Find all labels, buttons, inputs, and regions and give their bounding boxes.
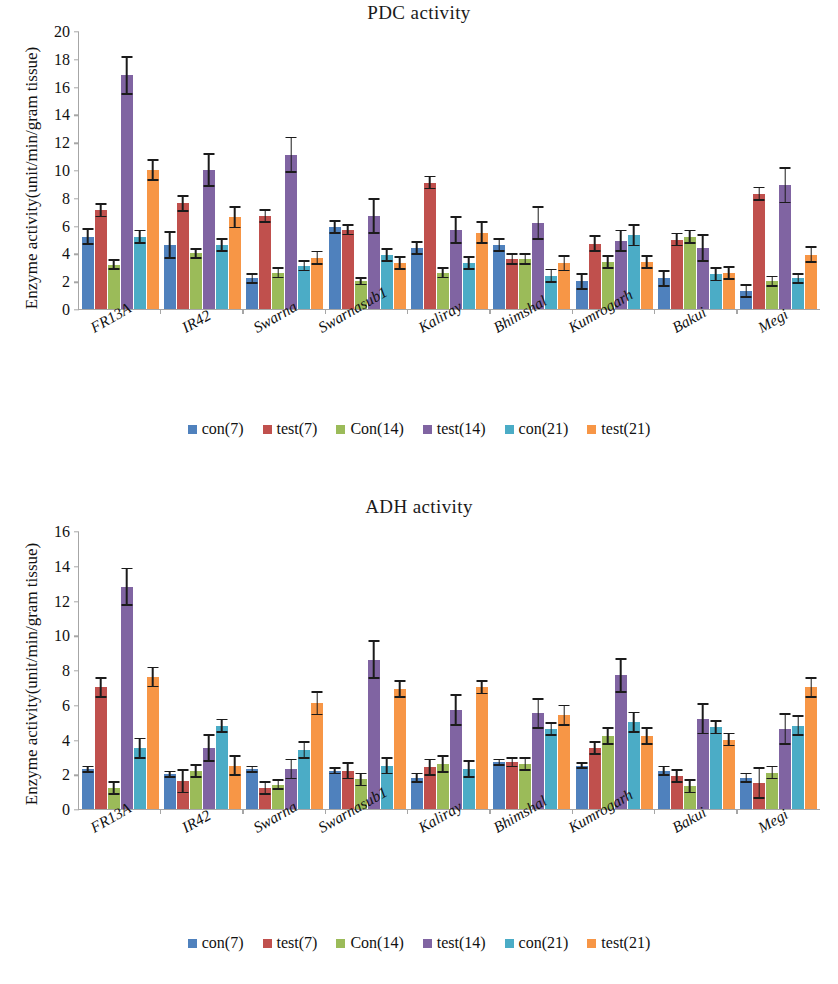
error-bar — [299, 260, 310, 271]
legend-swatch-icon — [423, 425, 432, 434]
bar-con7 — [493, 762, 505, 809]
x-label-cell: Bakui — [655, 814, 737, 874]
bar-test7 — [95, 210, 107, 309]
legend-swatch-icon — [263, 939, 272, 948]
bar-group — [326, 32, 408, 309]
error-bar — [767, 766, 778, 780]
plot-area-pdc: 02468101214161820 — [78, 32, 820, 310]
legend-label: con(21) — [519, 934, 569, 952]
error-bar — [641, 255, 652, 269]
error-bar — [723, 266, 734, 280]
error-bar — [671, 233, 682, 247]
error-bar — [780, 713, 791, 744]
y-tick-label: 8 — [62, 190, 79, 208]
bar-con21 — [134, 237, 146, 309]
y-tick-label: 16 — [54, 79, 79, 97]
bar-group — [326, 532, 408, 809]
bar-test14 — [697, 719, 709, 809]
error-bar — [615, 658, 626, 693]
legend-swatch-icon — [587, 939, 596, 948]
x-label-cell: Swarnasub1 — [325, 814, 407, 874]
y-tick-label: 12 — [54, 134, 79, 152]
chart-title-pdc: PDC activity — [0, 2, 838, 24]
bar-test7 — [506, 762, 518, 809]
y-tick-label: 14 — [54, 106, 79, 124]
x-label-cell: IR42 — [160, 814, 242, 874]
legend-item: Con(14) — [336, 420, 403, 438]
error-bar — [589, 741, 600, 755]
error-bar — [229, 206, 240, 228]
bar-test7 — [753, 194, 765, 309]
bar-test21 — [558, 263, 570, 309]
legend-item: Con(14) — [336, 934, 403, 952]
error-bar — [329, 767, 340, 774]
bar-group — [161, 532, 243, 809]
error-bar — [576, 273, 587, 290]
error-bar — [177, 195, 188, 212]
bar-con7 — [329, 227, 341, 309]
bar-test14 — [779, 185, 791, 309]
error-bar — [450, 216, 461, 244]
bar-test7 — [177, 781, 189, 809]
x-label-cell: Megi — [738, 814, 820, 874]
error-bar — [463, 256, 474, 270]
error-bar — [437, 755, 448, 772]
bar-test7 — [95, 687, 107, 809]
legend-label: con(21) — [519, 420, 569, 438]
legend-label: test(14) — [437, 420, 486, 438]
error-bar — [806, 246, 817, 263]
bar-test21 — [311, 258, 323, 309]
legend-label: con(7) — [202, 420, 244, 438]
legend-swatch-icon — [336, 939, 345, 948]
x-label-cell: Bhimshal — [490, 314, 572, 374]
error-bar — [381, 757, 392, 774]
legend-label: con(7) — [202, 934, 244, 952]
error-bar — [368, 640, 379, 678]
legend-swatch-icon — [505, 425, 514, 434]
error-bar — [615, 230, 626, 252]
error-bar — [216, 238, 227, 252]
bar-con7 — [246, 278, 258, 309]
error-bar — [411, 773, 422, 783]
bar-con7 — [411, 778, 423, 809]
bar-test7 — [259, 788, 271, 809]
error-bar — [602, 727, 613, 744]
error-bar — [533, 698, 544, 729]
y-tick-label: 2 — [62, 273, 79, 291]
error-bar — [355, 277, 366, 285]
bar-group — [738, 532, 820, 809]
error-bar — [507, 757, 518, 767]
bar-test21 — [805, 687, 817, 809]
bar-test7 — [506, 259, 518, 309]
error-bar — [576, 762, 587, 769]
error-bar — [767, 276, 778, 287]
error-bar — [134, 230, 145, 244]
y-tick-label: 12 — [54, 593, 79, 611]
error-bar — [806, 677, 817, 698]
error-bar — [82, 766, 93, 773]
bar-con21 — [792, 278, 804, 309]
bar-test7 — [671, 240, 683, 310]
legend-swatch-icon — [263, 425, 272, 434]
bar-test7 — [342, 230, 354, 309]
bar-test14 — [203, 748, 215, 809]
bar-test14 — [779, 729, 791, 809]
error-bar — [95, 203, 106, 217]
error-bar — [260, 209, 271, 223]
y-tick-label: 0 — [62, 801, 79, 819]
legend-item: test(21) — [587, 420, 650, 438]
error-bar — [476, 680, 487, 694]
legend-label: test(21) — [601, 420, 650, 438]
x-axis-labels-pdc: FR13AIR42SwarnaSwarnasub1KalirayBhimshal… — [78, 314, 820, 374]
bar-con14 — [684, 237, 696, 309]
bar-test21 — [147, 170, 159, 309]
error-bar — [108, 259, 119, 270]
bar-group — [491, 32, 573, 309]
bar-test21 — [476, 687, 488, 809]
error-bar — [546, 722, 557, 736]
bar-test14 — [285, 155, 297, 309]
bar-test7 — [589, 244, 601, 309]
bar-test21 — [805, 255, 817, 309]
bar-test14 — [450, 710, 462, 809]
y-tick-label: 10 — [54, 162, 79, 180]
